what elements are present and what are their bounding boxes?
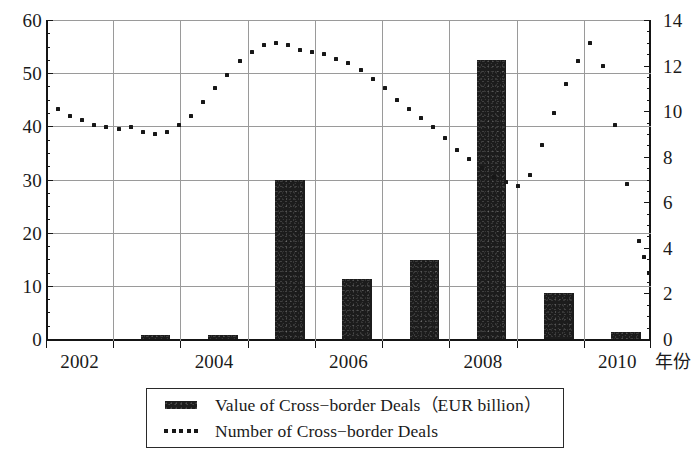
- bar: [141, 335, 171, 339]
- right-axis-tick-label: 14: [663, 11, 682, 30]
- right-axis-minor-tick: [647, 305, 651, 306]
- right-axis-minor-tick: [647, 54, 651, 55]
- gridline-vertical: [113, 20, 114, 341]
- x-axis-tick: [382, 341, 383, 348]
- x-axis-tick: [650, 341, 651, 348]
- left-axis-line: [46, 20, 48, 341]
- x-axis-tick: [584, 341, 585, 348]
- left-axis-tick-label: 40: [23, 117, 42, 136]
- right-axis-minor-tick: [647, 100, 651, 101]
- gridline-vertical: [584, 20, 585, 341]
- bar: [611, 332, 641, 339]
- data-point-marker: [504, 180, 508, 184]
- right-axis-minor-tick: [647, 316, 651, 317]
- right-axis-minor-tick: [647, 191, 651, 192]
- right-axis-minor-tick: [647, 31, 651, 32]
- left-axis-minor-tick: [46, 206, 50, 207]
- right-axis-minor-tick: [647, 77, 651, 78]
- right-axis-minor-tick: [647, 259, 651, 260]
- data-point-marker: [407, 107, 411, 111]
- data-point-marker: [540, 143, 544, 147]
- data-point-marker: [516, 184, 520, 188]
- x-axis-tick-label: 2004: [180, 352, 247, 371]
- right-axis-tick-label: 4: [663, 239, 673, 258]
- bar: [275, 180, 305, 340]
- data-point-marker: [213, 86, 217, 90]
- data-point-marker: [642, 255, 646, 259]
- right-axis-minor-tick: [647, 214, 651, 215]
- legend-bar-swatch-icon: [159, 401, 203, 409]
- left-axis-minor-tick: [46, 140, 50, 141]
- left-axis-minor-tick: [46, 326, 50, 327]
- legend-entry-value-of-cross-border-deals: Value of Cross−border Deals（EUR billion）: [159, 392, 541, 418]
- data-point-marker: [647, 271, 651, 275]
- left-axis-minor-tick: [46, 273, 50, 274]
- chart-figure: 6050403020100 14121086420 20022004200620…: [0, 0, 697, 451]
- data-point-marker: [165, 130, 169, 134]
- x-axis-tick-label: 2006: [315, 352, 382, 371]
- gridline-horizontal: [46, 126, 651, 127]
- right-axis-tick: [644, 339, 651, 340]
- gridline-horizontal: [46, 180, 651, 181]
- left-axis-minor-tick: [46, 219, 50, 220]
- right-axis-tick: [644, 111, 651, 112]
- data-point-marker: [455, 148, 459, 152]
- data-point-marker: [395, 98, 399, 102]
- left-axis-tick-label: 0: [32, 330, 42, 349]
- right-axis-tick: [644, 157, 651, 158]
- right-axis-minor-tick: [647, 145, 651, 146]
- left-axis-tick: [46, 233, 53, 234]
- right-axis-minor-tick: [647, 43, 651, 44]
- data-point-marker: [80, 118, 84, 122]
- bar: [410, 260, 440, 339]
- right-axis-tick-label: 8: [663, 148, 673, 167]
- right-axis-tick: [644, 248, 651, 249]
- data-point-marker: [117, 127, 121, 131]
- right-axis-tick-label: 12: [663, 57, 682, 76]
- left-axis-tick: [46, 20, 53, 21]
- gridline-horizontal: [46, 233, 651, 234]
- right-axis-minor-tick: [647, 236, 651, 237]
- data-point-marker: [601, 64, 605, 68]
- left-axis-minor-tick: [46, 153, 50, 154]
- gridline-horizontal: [46, 20, 651, 21]
- right-axis-tick-label: 0: [663, 330, 673, 349]
- data-point-marker: [359, 68, 363, 72]
- right-axis-minor-tick: [647, 328, 651, 329]
- data-point-marker: [262, 43, 266, 47]
- bottom-axis-line: [46, 339, 651, 341]
- right-axis-tick: [644, 202, 651, 203]
- data-point-marker: [346, 61, 350, 65]
- data-point-marker: [383, 86, 387, 90]
- data-point-marker: [68, 114, 72, 118]
- data-point-marker: [564, 82, 568, 86]
- left-axis-tick: [46, 180, 53, 181]
- left-axis-tick-label: 60: [23, 11, 42, 30]
- left-axis-tick: [46, 339, 53, 340]
- x-axis-tick: [180, 341, 181, 348]
- left-axis-minor-tick: [46, 100, 50, 101]
- data-point-marker: [334, 57, 338, 61]
- bar: [208, 335, 238, 339]
- data-point-marker: [552, 111, 556, 115]
- x-axis-tick-label: 2008: [449, 352, 516, 371]
- data-point-marker: [298, 48, 302, 52]
- right-axis-tick: [644, 66, 651, 67]
- legend-entry-number-of-cross-border-deals: Number of Cross−border Deals: [159, 418, 438, 444]
- x-axis-title: 年份: [655, 352, 691, 371]
- x-axis-tick-label: 2010: [584, 352, 651, 371]
- data-point-marker: [274, 41, 278, 45]
- data-point-marker: [225, 73, 229, 77]
- left-axis-tick-label: 30: [23, 171, 42, 190]
- data-point-marker: [576, 59, 580, 63]
- right-axis-minor-tick: [647, 180, 651, 181]
- data-point-marker: [189, 114, 193, 118]
- right-axis-minor-tick: [647, 282, 651, 283]
- data-point-marker: [625, 182, 629, 186]
- gridline-vertical: [315, 20, 316, 341]
- data-point-marker: [238, 59, 242, 63]
- right-axis-tick: [644, 293, 651, 294]
- data-point-marker: [492, 175, 496, 179]
- data-point-marker: [129, 125, 133, 129]
- left-axis-minor-tick: [46, 312, 50, 313]
